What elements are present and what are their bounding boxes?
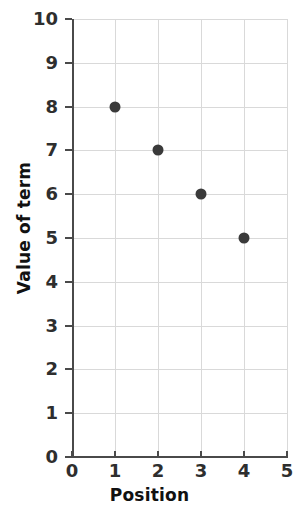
gridline-horizontal bbox=[72, 326, 287, 327]
y-axis-tick-label: 2 bbox=[18, 360, 58, 378]
x-axis-tick-label: 2 bbox=[143, 462, 173, 480]
y-axis-tick bbox=[65, 106, 72, 108]
x-axis-tick bbox=[71, 451, 73, 458]
gridline-horizontal bbox=[72, 107, 287, 108]
data-point bbox=[196, 189, 207, 200]
gridline-horizontal bbox=[72, 238, 287, 239]
gridline-horizontal bbox=[72, 63, 287, 64]
x-axis-tick bbox=[114, 451, 116, 458]
y-axis-tick bbox=[65, 18, 72, 20]
gridline-horizontal bbox=[72, 194, 287, 195]
y-axis-title: Value of term bbox=[14, 138, 34, 318]
gridline-horizontal bbox=[72, 150, 287, 151]
x-axis-tick bbox=[157, 451, 159, 458]
x-axis-tick-label: 3 bbox=[186, 462, 216, 480]
gridline-vertical bbox=[287, 19, 288, 457]
x-axis-tick bbox=[286, 451, 288, 458]
x-axis-tick-label: 5 bbox=[272, 462, 299, 480]
plot-area bbox=[72, 19, 287, 457]
y-axis-tick-label: 8 bbox=[18, 98, 58, 116]
y-axis-tick bbox=[65, 237, 72, 239]
gridline-horizontal bbox=[72, 282, 287, 283]
y-axis-tick bbox=[65, 325, 72, 327]
gridline-horizontal bbox=[72, 19, 287, 20]
data-point bbox=[239, 233, 250, 244]
y-axis-tick bbox=[65, 281, 72, 283]
y-axis-tick-label: 3 bbox=[18, 317, 58, 335]
y-axis-tick-label: 0 bbox=[18, 448, 58, 466]
x-axis-tick-label: 1 bbox=[100, 462, 130, 480]
y-axis-tick bbox=[65, 149, 72, 151]
data-point bbox=[153, 145, 164, 156]
y-axis-line bbox=[72, 19, 74, 458]
x-axis-line bbox=[72, 456, 288, 458]
x-axis-tick-label: 4 bbox=[229, 462, 259, 480]
x-axis-tick bbox=[200, 451, 202, 458]
y-axis-tick bbox=[65, 193, 72, 195]
y-axis-tick-label: 4 bbox=[18, 273, 58, 291]
y-axis-tick bbox=[65, 368, 72, 370]
y-axis-tick-label: 10 bbox=[18, 10, 58, 28]
x-axis-tick bbox=[243, 451, 245, 458]
y-axis-tick-label: 9 bbox=[18, 54, 58, 72]
scatter-chart: Position Value of term 01234567891001234… bbox=[0, 0, 299, 511]
y-axis-tick-label: 5 bbox=[18, 229, 58, 247]
y-axis-tick-label: 6 bbox=[18, 185, 58, 203]
gridline-horizontal bbox=[72, 369, 287, 370]
y-axis-tick-label: 7 bbox=[18, 141, 58, 159]
gridline-horizontal bbox=[72, 413, 287, 414]
y-axis-tick bbox=[65, 62, 72, 64]
y-axis-tick bbox=[65, 412, 72, 414]
x-axis-tick-label: 0 bbox=[57, 462, 87, 480]
data-point bbox=[110, 101, 121, 112]
x-axis-title: Position bbox=[0, 485, 299, 505]
y-axis-tick-label: 1 bbox=[18, 404, 58, 422]
